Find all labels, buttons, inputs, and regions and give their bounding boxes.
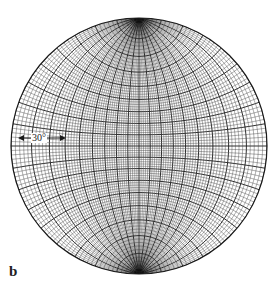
stereonet-diagram [0, 0, 278, 289]
angle-annotation: 30° [31, 133, 47, 143]
panel-label: b [9, 263, 17, 280]
